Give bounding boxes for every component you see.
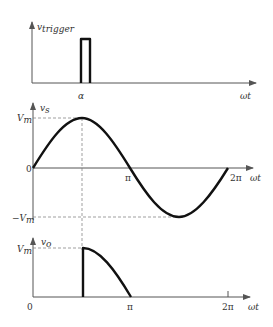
source-panel: vs Vm 0 −Vm π 2π ωt [12,103,261,250]
source-x-label: ωt [250,173,261,183]
alpha-label: α [78,91,84,101]
output-panel: vo Vm 0 π 2π ωt [17,237,259,312]
trigger-panel: vtrigger α ωt [32,22,256,101]
neg-vm-label: −Vm [12,213,35,225]
origin-label: 0 [26,164,32,174]
trigger-y-label: vtrigger [37,22,75,34]
source-y-label: vs [40,103,50,115]
output-x-label: ωt [248,302,259,312]
output-origin-label: 0 [27,302,33,312]
scr-waveform-diagram: vtrigger α ωt vs Vm 0 −Vm π 2π ωt vo Vm … [0,0,273,327]
two-pi-label: 2π [230,173,242,183]
trigger-x-label: ωt [240,91,251,101]
trigger-pulse [81,39,90,83]
output-pi-label: π [127,302,133,312]
pi-label: π [125,173,131,183]
output-two-pi-label: 2π [222,302,234,312]
vm-label: Vm [17,113,32,125]
output-wave [83,248,131,297]
output-y-label: vo [41,237,52,249]
output-vm-label: Vm [17,244,32,256]
